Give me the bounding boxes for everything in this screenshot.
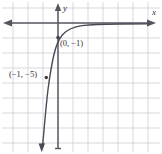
point-label-origin-intercept: (0, −1) <box>60 39 83 48</box>
y-axis-label: y <box>63 4 67 13</box>
x-axis-arrow-left <box>3 20 12 27</box>
y-axis-arrow-up <box>55 3 61 11</box>
point-marker-neg1-neg5 <box>45 76 48 79</box>
x-axis-arrow-right <box>147 20 156 27</box>
curve-arrow-down <box>39 143 46 152</box>
graph-figure: x y (0, −1) (−1, −5) <box>0 0 162 154</box>
plotted-curve <box>39 24 149 152</box>
x-axis-label: x <box>152 8 156 17</box>
point-label-neg1-neg5: (−1, −5) <box>9 70 37 79</box>
y-axis <box>55 3 61 149</box>
